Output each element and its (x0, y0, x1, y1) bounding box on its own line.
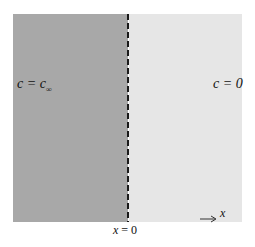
right-concentration-label: c = 0 (213, 76, 243, 92)
left-region-high-concentration (13, 14, 128, 222)
right-region-zero-concentration (129, 14, 242, 222)
boundary-dashed-line (127, 14, 129, 222)
left-concentration-label: c = c∞ (17, 76, 52, 94)
arrow-right-icon (200, 215, 218, 223)
origin-text: = 0 (118, 223, 137, 237)
label-eq: = (23, 76, 39, 91)
label-subscript: ∞ (46, 85, 52, 94)
origin-label: x = 0 (113, 223, 137, 238)
x-axis-label: x (220, 206, 225, 221)
